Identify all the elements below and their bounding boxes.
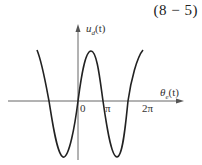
tick-label-pi: π bbox=[105, 102, 111, 114]
waveform-curve bbox=[37, 50, 143, 157]
y-axis-label: ud(t) bbox=[86, 22, 105, 37]
x-axis-label: θe(t) bbox=[160, 86, 179, 101]
tick-label-2pi: 2π bbox=[142, 102, 153, 114]
tick-label-0: 0 bbox=[80, 102, 86, 114]
y-axis-arrow-icon bbox=[76, 24, 81, 32]
